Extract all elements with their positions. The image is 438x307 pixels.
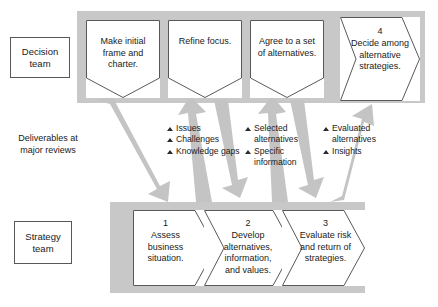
decision-step-4-text: Decide among alternative strategies. <box>346 38 414 73</box>
bullet-triangle-icon <box>323 150 329 154</box>
deliverable-item: Insights <box>323 146 403 157</box>
strategy-step-3-number: 3 <box>300 218 351 230</box>
deliverable-item: Challenges <box>167 134 247 145</box>
deliverable-item-label: Knowledge gaps <box>176 146 247 157</box>
process-flow-diagram: Decision team Strategy team Deliverables… <box>0 0 438 307</box>
pentagon-down-icon <box>168 20 242 98</box>
strategy-step-2-shape[interactable]: 2 Develop alternatives, information, and… <box>204 210 294 286</box>
bullet-triangle-icon <box>245 150 251 154</box>
deliverable-item-label: Specific information <box>254 146 323 169</box>
deliverable-item: Issues <box>167 123 247 134</box>
decision-team-label-line2: team <box>29 58 50 69</box>
deliverables-column-3: Evaluated alternativesInsights <box>323 123 403 157</box>
deliverables-column-1: IssuesChallengesKnowledge gaps <box>167 123 247 157</box>
deliverables-label-line1: Deliverables at <box>18 133 78 143</box>
deliverable-item-label: Issues <box>176 123 247 134</box>
decision-step-1-text: Make initial frame and charter. <box>91 36 155 71</box>
decision-step-3-shape[interactable]: Agree to a set of alternatives. <box>250 20 324 98</box>
deliverable-item-label: Challenges <box>176 134 247 145</box>
deliverables-column-2: Selected alternativesSpecific informatio… <box>245 123 323 168</box>
strategy-step-1-number: 1 <box>137 218 194 230</box>
strategy-step-2-number: 2 <box>222 218 274 230</box>
deliverable-item-label: Evaluated alternatives <box>332 123 403 146</box>
decision-step-1-shape[interactable]: Make initial frame and charter. <box>86 20 160 98</box>
strategy-step-3-text: Evaluate risk and return of strategies. <box>298 230 353 265</box>
decision-step-2-text: Refine focus. <box>173 36 237 48</box>
bullet-triangle-icon <box>167 138 173 142</box>
bullet-triangle-icon <box>245 127 251 131</box>
deliverable-item: Specific information <box>245 146 323 169</box>
deliverable-item-label: Insights <box>332 146 403 157</box>
strategy-step-2-text: Develop alternatives, information, and v… <box>220 230 276 276</box>
bullet-triangle-icon <box>167 127 173 131</box>
deliverable-item-label: Selected alternatives <box>254 123 323 146</box>
strategy-step-3-shape[interactable]: 3 Evaluate risk and return of strategies… <box>282 210 365 286</box>
deliverable-item: Evaluated alternatives <box>323 123 403 146</box>
bullet-triangle-icon <box>323 127 329 131</box>
deliverables-label: Deliverables at major reviews <box>5 133 91 156</box>
decision-step-4-number: 4 <box>346 26 414 38</box>
strategy-team-label-line1: Strategy <box>25 231 60 242</box>
strategy-team-label-box: Strategy team <box>14 221 72 264</box>
decision-step-4-shape[interactable]: 4 Decide among alternative strategies. <box>340 17 420 101</box>
strategy-step-1-text: Assess business situation. <box>137 230 194 265</box>
arrow-down-icon-1 <box>96 96 170 202</box>
bullet-triangle-icon <box>167 150 173 154</box>
strategy-team-label-line2: team <box>32 243 53 254</box>
deliverable-item: Knowledge gaps <box>167 146 247 157</box>
decision-step-2-shape[interactable]: Refine focus. <box>168 20 242 98</box>
deliverable-item: Selected alternatives <box>245 123 323 146</box>
deliverables-label-line2: major reviews <box>20 145 76 155</box>
decision-step-3-text: Agree to a set of alternatives. <box>255 36 319 59</box>
decision-team-label-box: Decision team <box>10 37 70 78</box>
decision-team-label-line1: Decision <box>22 46 58 57</box>
